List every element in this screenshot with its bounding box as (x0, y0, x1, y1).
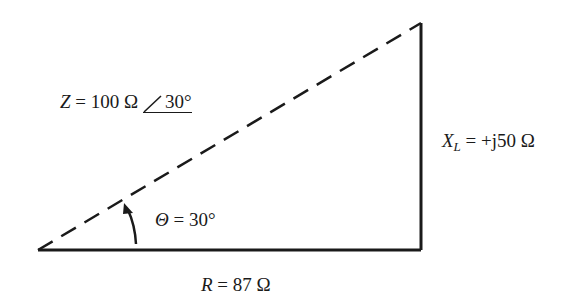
impedance-symbol: Z (60, 91, 71, 112)
impedance-triangle (0, 0, 586, 306)
resistance-value: = 87 Ω (213, 274, 271, 295)
reactance-subscript: L (454, 139, 461, 154)
theta-arc-arrow (128, 210, 136, 244)
reactance-value: = +j50 Ω (461, 130, 535, 151)
resistance-label: R = 87 Ω (201, 275, 271, 294)
reactance-label: XL = +j50 Ω (442, 131, 535, 153)
angle-icon (143, 93, 163, 113)
impedance-value: = 100 Ω (71, 91, 143, 112)
arrowhead-icon (123, 203, 133, 214)
theta-value: = 30° (169, 209, 216, 230)
impedance-angle: 30° (165, 91, 192, 112)
impedance-label: Z = 100 Ω 30° (60, 92, 192, 113)
theta-symbol: Θ (155, 209, 169, 230)
reactance-symbol: X (442, 130, 454, 151)
impedance-hypotenuse (38, 23, 421, 250)
theta-label: Θ = 30° (155, 210, 216, 229)
angle-notation: 30° (143, 92, 192, 113)
resistance-symbol: R (201, 274, 213, 295)
